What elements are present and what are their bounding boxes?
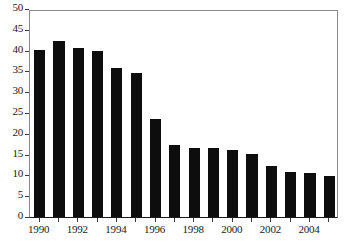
x-tick-mark	[135, 218, 136, 222]
bar	[266, 166, 277, 217]
y-tick-label: 40	[12, 44, 23, 55]
x-tick-label: 1996	[144, 223, 165, 235]
x-tick-mark	[193, 218, 194, 222]
bar	[150, 119, 161, 217]
bar	[246, 154, 257, 217]
x-tick-label: 2002	[260, 223, 281, 235]
x-tick-label: 2000	[221, 223, 242, 235]
y-tick-label: 5	[18, 189, 23, 200]
x-tick-label: 1994	[105, 223, 126, 235]
x-tick-mark	[77, 218, 78, 222]
y-tick-label: 50	[12, 2, 23, 13]
bar	[34, 50, 45, 217]
x-tick-label: 1992	[67, 223, 88, 235]
bar	[285, 172, 296, 217]
y-tick-label: 25	[12, 106, 23, 117]
x-tick-label: 1990	[28, 223, 49, 235]
y-tick-label: 20	[12, 127, 23, 138]
x-tick-mark	[309, 218, 310, 222]
bar	[189, 148, 200, 217]
y-tick-label: 15	[12, 148, 23, 159]
x-tick-mark	[290, 218, 291, 222]
y-tick-label: 0	[18, 210, 23, 221]
x-tick-label: 2004	[298, 223, 319, 235]
bar	[169, 145, 180, 217]
x-tick-mark	[212, 218, 213, 222]
y-tick-label: 10	[12, 168, 23, 179]
y-axis: 05101520253035404550	[0, 0, 29, 252]
x-tick-mark	[97, 218, 98, 222]
bar	[131, 73, 142, 217]
x-tick-mark	[174, 218, 175, 222]
bar	[111, 68, 122, 217]
bar	[92, 51, 103, 217]
y-tick-label: 30	[12, 85, 23, 96]
bar-chart-figure: 05101520253035404550 1990199219941996199…	[0, 0, 352, 252]
bar	[208, 148, 219, 217]
bar	[73, 48, 84, 217]
x-tick-mark	[328, 218, 329, 222]
y-tick-label: 45	[12, 23, 23, 34]
x-tick-mark	[58, 218, 59, 222]
x-tick-mark	[270, 218, 271, 222]
x-tick-label: 1998	[183, 223, 204, 235]
x-tick-mark	[116, 218, 117, 222]
x-tick-mark	[39, 218, 40, 222]
plot-area	[29, 10, 338, 218]
bar	[304, 173, 315, 217]
bar	[324, 176, 335, 217]
x-tick-mark	[232, 218, 233, 222]
bar	[53, 41, 64, 217]
bar	[227, 150, 238, 217]
x-tick-mark	[155, 218, 156, 222]
x-axis: 19901992199419961998200020022004	[29, 218, 338, 252]
bar-series	[30, 11, 337, 217]
y-tick-label: 35	[12, 64, 23, 75]
x-tick-mark	[251, 218, 252, 222]
